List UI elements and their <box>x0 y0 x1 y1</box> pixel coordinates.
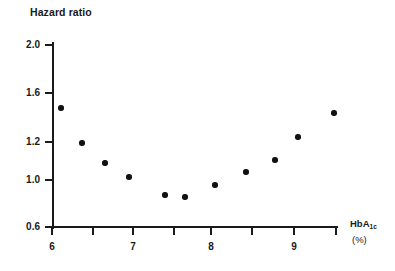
data-point <box>212 182 217 187</box>
data-point <box>79 140 84 145</box>
x-axis-title: HbA1c <box>350 218 377 229</box>
x-axis-units-label: (%) <box>352 234 367 245</box>
x-axis-title-subscript: 1c <box>370 223 378 230</box>
x-axis-title-main: HbA <box>350 218 370 229</box>
data-point <box>102 160 107 165</box>
chart-figure: Hazard ratio 2.01.61.21.00.6 6789 HbA1c … <box>0 0 395 271</box>
data-point <box>272 157 277 162</box>
data-point <box>58 105 63 110</box>
data-point <box>182 194 187 199</box>
data-point <box>295 134 300 139</box>
data-point <box>126 174 131 179</box>
data-point <box>243 169 248 174</box>
data-point <box>162 192 167 197</box>
plot-area <box>0 0 395 271</box>
data-point <box>331 110 336 115</box>
